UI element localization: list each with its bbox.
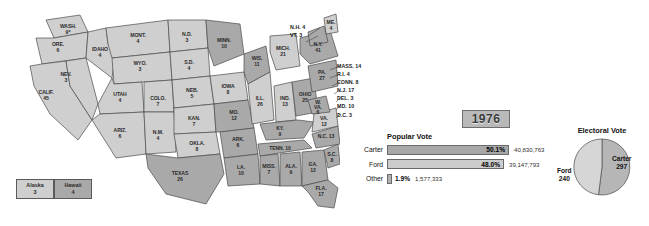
svg-text:26: 26 [257, 101, 263, 107]
svg-text:25: 25 [302, 97, 308, 103]
svg-text:6: 6 [57, 47, 60, 53]
inset-hawaii-votes: 4 [55, 189, 91, 196]
popular-vote-count-ford: 39,147,793 [504, 161, 540, 168]
svg-text:3: 3 [186, 37, 189, 43]
svg-text:17: 17 [318, 191, 324, 197]
svg-text:21: 21 [280, 51, 286, 57]
state-texas [146, 154, 224, 204]
svg-text:4: 4 [330, 25, 333, 31]
svg-text:7: 7 [157, 101, 160, 107]
electoral-vote-title: Electoral Vote [556, 126, 648, 135]
svg-text:3: 3 [65, 77, 68, 83]
popular-vote-bar-ford: 48.0% [387, 159, 504, 169]
callout-rhode-island: R.I. 4 [337, 71, 361, 79]
popular-vote-row-other: Other 1.9% 1,577,333 [345, 173, 545, 184]
svg-text:3: 3 [139, 66, 142, 72]
callout-delaware: DEL. 3 [337, 95, 361, 103]
popular-vote-barwrap-carter: 50.1% [387, 145, 509, 155]
state-wyoming [112, 52, 172, 84]
callout-maryland: MD. 10 [337, 103, 361, 111]
svg-text:4: 4 [119, 97, 122, 103]
state-kentucky [260, 120, 314, 140]
pie-slice-ford [574, 139, 602, 195]
popular-vote-pct-carter: 50.1% [486, 146, 508, 153]
svg-text:45: 45 [43, 95, 49, 101]
popular-vote-title: Popular Vote [387, 132, 545, 141]
svg-text:8: 8 [196, 146, 199, 152]
electoral-vote-chart: Electoral Vote Carter 297 Ford 240 [556, 126, 648, 197]
year-badge: 1976 [462, 110, 510, 128]
svg-text:11: 11 [254, 61, 260, 67]
inset-alaska-votes: 3 [17, 189, 53, 196]
popular-vote-name-carter: Carter [345, 146, 387, 153]
svg-text:TENN. 10: TENN. 10 [269, 145, 291, 151]
svg-text:9*: 9* [66, 29, 71, 35]
popular-vote-pct-ford: 48.0% [481, 161, 503, 168]
svg-text:10: 10 [238, 170, 244, 176]
svg-text:N.C. 13: N.C. 13 [318, 133, 335, 139]
callout-district-of-columbia: D.C. 3 [337, 112, 361, 120]
svg-text:12: 12 [231, 115, 237, 121]
electoral-name-carter: Carter [612, 155, 631, 163]
svg-text:9: 9 [279, 131, 282, 137]
svg-text:4: 4 [99, 52, 102, 58]
svg-text:6: 6 [237, 142, 240, 148]
svg-text:12: 12 [310, 167, 316, 173]
inset-hawaii: Hawaii 4 [54, 179, 92, 199]
svg-text:27: 27 [319, 75, 325, 81]
popular-vote-chart: Popular Vote Carter 50.1% 40,830,763 For… [345, 132, 545, 188]
svg-text:10: 10 [221, 43, 227, 49]
popular-vote-row-carter: Carter 50.1% 40,830,763 [345, 144, 545, 155]
popular-vote-barwrap-other [387, 174, 392, 184]
callout-new-hampshire: N.H. 4 [290, 24, 305, 30]
us-electoral-map: WASH.9* ORE.6 IDAHO4 MONT.4 WYO.3 NEV.3 … [0, 0, 340, 226]
svg-text:4: 4 [188, 65, 191, 71]
svg-text:7: 7 [193, 121, 196, 127]
electoral-label-ford: Ford 240 [557, 167, 572, 183]
svg-text:13: 13 [282, 101, 288, 107]
popular-vote-bar-other [387, 174, 392, 184]
svg-text:12: 12 [321, 121, 327, 127]
svg-text:4: 4 [157, 135, 160, 141]
electoral-pie-wrap: Carter 297 Ford 240 [556, 137, 648, 197]
electoral-votes-carter: 297 [612, 163, 631, 171]
election-map-infographic: WASH.9* ORE.6 IDAHO4 MONT.4 WYO.3 NEV.3 … [0, 0, 649, 226]
electoral-label-carter: Carter 297 [612, 155, 631, 171]
svg-text:9: 9 [290, 169, 293, 175]
popular-vote-bar-carter: 50.1% [387, 145, 509, 155]
popular-vote-row-ford: Ford 48.0% 39,147,793 [345, 159, 545, 170]
inset-alaska: Alaska 3 [16, 179, 54, 199]
svg-text:8: 8 [331, 157, 334, 163]
svg-text:26: 26 [177, 176, 183, 182]
popular-vote-name-ford: Ford [345, 161, 387, 168]
popular-vote-name-other: Other [345, 175, 387, 182]
callout-vermont: VT. 3 [290, 32, 302, 38]
callout-new-jersey: N.J. 17 [337, 87, 361, 95]
svg-text:7: 7 [268, 169, 271, 175]
popular-vote-count-other: 1,577,333 [410, 175, 442, 182]
svg-text:5: 5 [191, 93, 194, 99]
svg-text:6: 6 [119, 133, 122, 139]
electoral-name-ford: Ford [557, 167, 572, 175]
electoral-votes-ford: 240 [557, 175, 572, 183]
svg-text:41: 41 [315, 47, 321, 53]
popular-vote-barwrap-ford: 48.0% [387, 159, 504, 169]
svg-text:4: 4 [137, 38, 140, 44]
svg-text:6: 6 [317, 109, 320, 115]
svg-text:8: 8 [227, 89, 230, 95]
callout-stack-northeast: MASS. 14 R.I. 4 CONN. 8 N.J. 17 DEL. 3 M… [337, 63, 361, 120]
popular-vote-pct-other: 1.9% [392, 175, 410, 182]
callout-connecticut: CONN. 8 [337, 79, 361, 87]
popular-vote-count-carter: 40,830,763 [509, 146, 545, 153]
callout-massachusetts: MASS. 14 [337, 63, 361, 71]
